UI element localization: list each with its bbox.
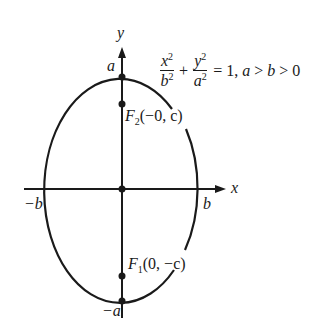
x-axis-label: x	[231, 180, 238, 196]
center-point	[119, 186, 126, 193]
fraction-x-over-b: x2 b2	[160, 52, 174, 90]
ellipse-equation: x2 b2 + y2 a2 = 1, a > b > 0	[158, 52, 300, 90]
focus-f1-label: F1(0, −c)	[128, 256, 186, 275]
y-axis-label: y	[117, 25, 124, 41]
vertex-top-label: a	[107, 58, 115, 74]
vertex-left-label: −b	[24, 196, 43, 212]
y-axis-arrow-icon	[118, 47, 126, 58]
vertex-bottom-label: −a	[102, 303, 121, 318]
focus-f2-label: F2(−0, c)	[125, 108, 183, 127]
vertex-top-point	[119, 74, 126, 81]
vertex-right-label: b	[203, 196, 211, 212]
x-axis-arrow-icon	[215, 185, 226, 193]
focus-f1-point	[119, 273, 126, 280]
fraction-y-over-a: y2 a2	[193, 52, 207, 90]
